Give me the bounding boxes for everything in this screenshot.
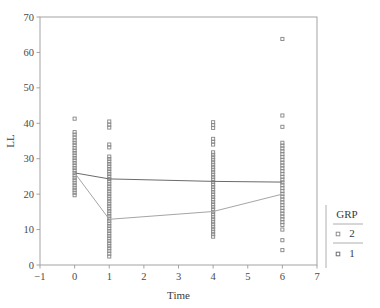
scatter-plot-canvas: 010203040506070−101234567TimeLLGRP21 (0, 0, 380, 308)
x-axis-tick-label: 4 (211, 271, 217, 282)
x-axis-tick-label: −1 (34, 271, 45, 282)
y-axis-tick-label: 40 (24, 118, 35, 129)
y-axis-tick-label: 70 (24, 12, 35, 23)
y-axis-tick-label: 60 (24, 47, 35, 58)
y-axis-title: LL (4, 134, 16, 148)
x-axis-tick-label: 0 (72, 271, 77, 282)
x-axis-tick-label: 6 (280, 271, 285, 282)
y-axis-tick-label: 10 (24, 224, 35, 235)
legend-item-label: 2 (349, 227, 355, 239)
x-axis-tick-label: 7 (314, 271, 319, 282)
x-axis-tick-label: 3 (176, 271, 181, 282)
y-axis-tick-label: 30 (24, 153, 35, 164)
x-axis-title: Time (167, 289, 190, 301)
legend-item-label: 1 (349, 247, 355, 259)
x-axis-tick-label: 2 (141, 271, 146, 282)
legend-title: GRP (336, 208, 357, 220)
legend-marker-icon (336, 252, 340, 256)
legend-marker-icon (336, 232, 340, 236)
y-axis-tick-label: 0 (29, 260, 34, 271)
y-axis-tick-label: 50 (24, 82, 35, 93)
x-axis-tick-label: 5 (245, 271, 250, 282)
legend-item-1[interactable]: 1 (336, 247, 355, 259)
x-axis-tick-label: 1 (107, 271, 112, 282)
legend-item-2[interactable]: 2 (336, 227, 355, 239)
chart-figure: 010203040506070−101234567TimeLLGRP21 (0, 0, 380, 308)
plot-frame (40, 17, 317, 265)
y-axis-tick-label: 20 (24, 189, 35, 200)
